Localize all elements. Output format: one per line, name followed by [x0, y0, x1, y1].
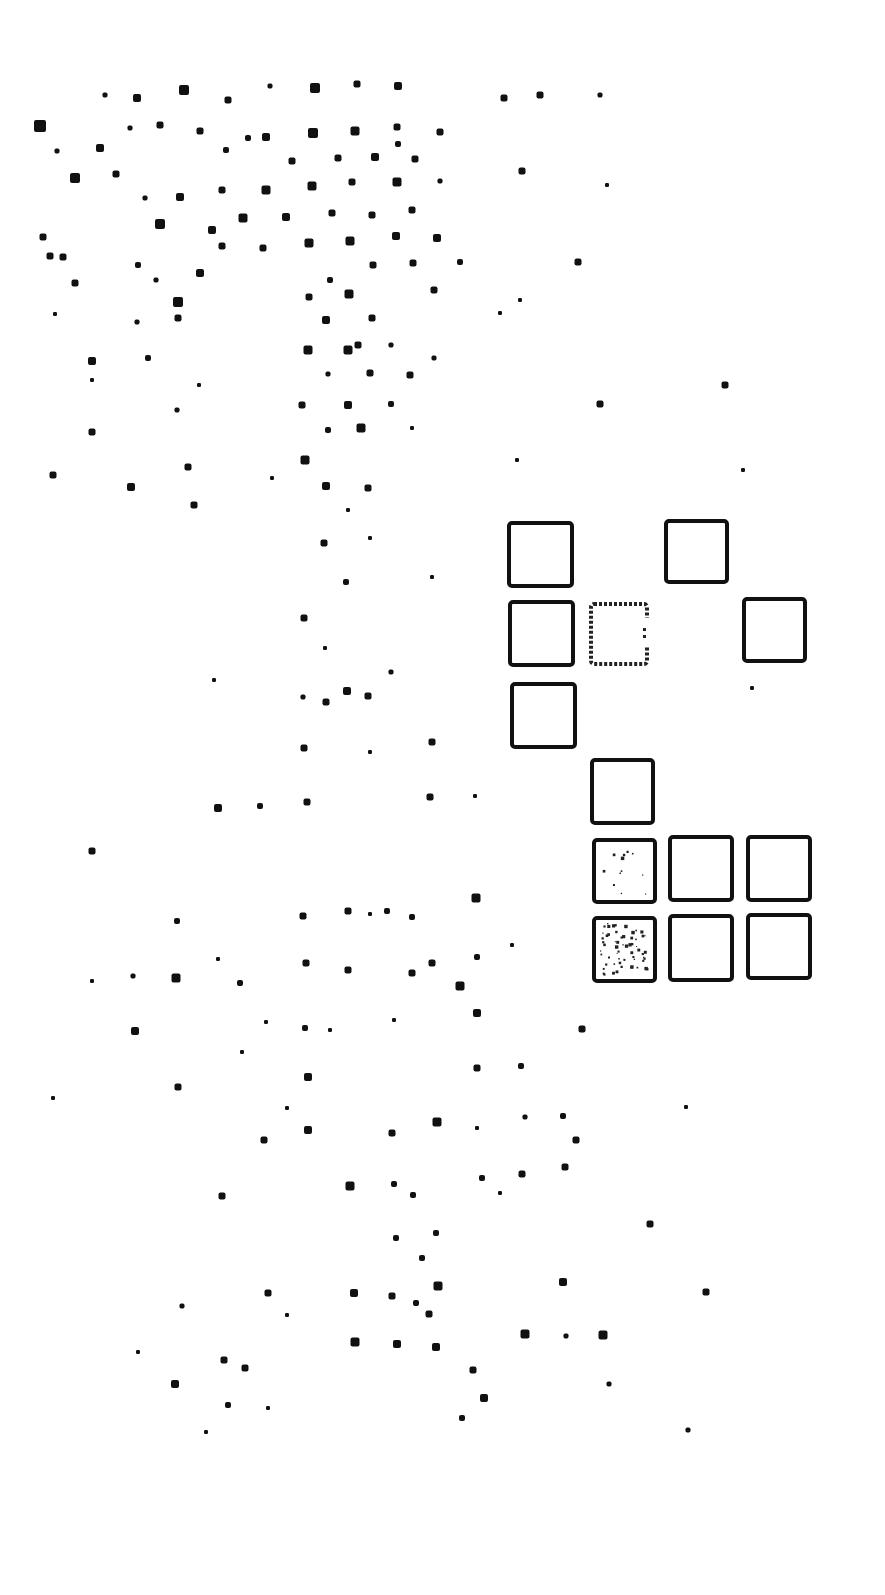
- dot-mark: [599, 1331, 608, 1340]
- dot-mark: [394, 82, 402, 90]
- dot-mark: [145, 355, 151, 361]
- dot-mark: [351, 127, 360, 136]
- dot-mark: [171, 1380, 179, 1388]
- dot-mark: [434, 1282, 443, 1291]
- dot-mark: [180, 1304, 185, 1309]
- dot-mark: [208, 226, 216, 234]
- dot-mark: [197, 128, 204, 135]
- dot-mark: [172, 974, 181, 983]
- dot-mark: [354, 81, 361, 88]
- dot-mark: [260, 245, 267, 252]
- dot-mark: [346, 237, 355, 246]
- sq-r1c3: [666, 521, 727, 582]
- dot-mark: [518, 1063, 524, 1069]
- dot-mark: [433, 1230, 439, 1236]
- dot-mark: [221, 1357, 228, 1364]
- dot-mark: [426, 1311, 433, 1318]
- dot-mark: [306, 294, 313, 301]
- dot-mark: [389, 670, 394, 675]
- dot-mark: [219, 187, 226, 194]
- dot-mark: [329, 210, 336, 217]
- dot-mark: [741, 468, 745, 472]
- dot-mark: [344, 346, 353, 355]
- dot-mark: [55, 149, 60, 154]
- dot-mark: [410, 1192, 416, 1198]
- sq-r3c1: [512, 684, 575, 747]
- dot-mark: [264, 1020, 268, 1024]
- dot-mark: [90, 378, 94, 382]
- dot-mark: [308, 182, 317, 191]
- dot-mark: [304, 1126, 312, 1134]
- dot-mark: [384, 908, 390, 914]
- dot-mark: [285, 1313, 289, 1317]
- dot-mark: [457, 259, 463, 265]
- dot-mark: [310, 83, 320, 93]
- dot-mark: [113, 171, 120, 178]
- dot-mark: [407, 372, 414, 379]
- dot-mark: [303, 960, 310, 967]
- dot-mark: [212, 678, 216, 682]
- dot-mark: [350, 1289, 358, 1297]
- dot-mark: [367, 370, 374, 377]
- dot-mark: [368, 750, 372, 754]
- dot-mark: [429, 739, 436, 746]
- dot-mark: [322, 316, 330, 324]
- dot-mark: [127, 483, 135, 491]
- dot-mark: [154, 278, 159, 283]
- dot-mark: [51, 1096, 55, 1100]
- dot-mark: [302, 1025, 308, 1031]
- dot-mark: [393, 178, 402, 187]
- dot-mark: [703, 1289, 710, 1296]
- dot-mark: [410, 260, 417, 267]
- dot-mark: [289, 158, 296, 165]
- dot-mark: [133, 94, 141, 102]
- dot-mark: [196, 269, 204, 277]
- dot-mark: [501, 95, 508, 102]
- dot-mark: [371, 153, 379, 161]
- dot-mark: [474, 954, 480, 960]
- dot-mark: [410, 426, 414, 430]
- dot-mark: [518, 298, 522, 302]
- dot-mark: [90, 979, 94, 983]
- dot-mark: [750, 686, 754, 690]
- dot-mark: [479, 1175, 485, 1181]
- sq-r1c1: [509, 523, 572, 586]
- dot-mark: [564, 1334, 569, 1339]
- dot-mark: [368, 536, 372, 540]
- dot-mark: [96, 144, 104, 152]
- dot-mark: [459, 1415, 465, 1421]
- sq-r6c3: [670, 916, 732, 980]
- dot-mark: [131, 1027, 139, 1035]
- dot-mark: [510, 943, 514, 947]
- dot-mark: [239, 214, 248, 223]
- dot-mark: [34, 120, 46, 132]
- dot-mark: [242, 1365, 249, 1372]
- dot-mark: [136, 1350, 140, 1354]
- sq-r2c2: [591, 604, 651, 664]
- scattered-dots: [34, 81, 754, 1435]
- dot-mark: [175, 408, 180, 413]
- dot-mark: [185, 464, 192, 471]
- dot-mark: [409, 970, 416, 977]
- dot-mark: [607, 1382, 612, 1387]
- sq-r4c2: [592, 760, 653, 823]
- dot-mark: [393, 1235, 399, 1241]
- dot-mark: [430, 575, 434, 579]
- dot-mark: [432, 1343, 440, 1351]
- dot-mark: [135, 262, 141, 268]
- dot-mark: [262, 133, 270, 141]
- dot-mark: [647, 1221, 654, 1228]
- dot-mark: [368, 912, 372, 916]
- dot-mark: [559, 1278, 567, 1286]
- dot-mark: [562, 1164, 569, 1171]
- sq-r5c2: [594, 840, 655, 902]
- dot-mark: [388, 401, 394, 407]
- square-grid: [509, 521, 810, 981]
- dot-mark: [301, 745, 308, 752]
- dot-mark: [413, 1300, 419, 1306]
- dot-mark: [266, 1406, 270, 1410]
- dot-mark: [389, 1293, 396, 1300]
- dot-mark: [498, 1191, 502, 1195]
- dot-mark: [433, 234, 441, 242]
- dot-mark: [412, 156, 419, 163]
